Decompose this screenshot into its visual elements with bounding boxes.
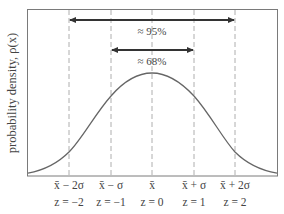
- z-label-minus-2: z = −2: [54, 196, 84, 208]
- annotation-68-percent: ≈ 68%: [138, 55, 167, 67]
- tick-label-minus-2sigma: x̄ − 2σ: [54, 179, 84, 191]
- tick-label-plus-2sigma: x̄ + 2σ: [220, 179, 250, 191]
- y-axis-label: probability density, ρ(x): [5, 32, 20, 152]
- z-label-zero: z = 0: [140, 196, 163, 208]
- z-label-plus-1: z = 1: [182, 196, 205, 208]
- tick-label-minus-1sigma: x̄ − σ: [99, 179, 123, 191]
- z-label-plus-2: z = 2: [223, 196, 246, 208]
- gaussian-curve: [28, 73, 277, 173]
- annotation-95-percent: ≈ 95%: [138, 25, 167, 37]
- z-label-minus-1: z = −1: [96, 196, 126, 208]
- tick-label-mean: x̄: [149, 179, 155, 191]
- y-axis-label-container: probability density, ρ(x): [2, 9, 22, 176]
- tick-label-plus-1sigma: x̄ + σ: [182, 179, 206, 191]
